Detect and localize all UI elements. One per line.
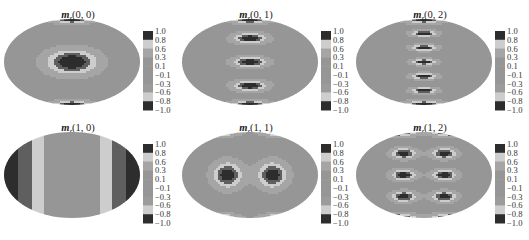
field-cell bbox=[54, 65, 56, 67]
field-cell bbox=[276, 73, 278, 75]
field-cell bbox=[186, 55, 188, 57]
field-cell bbox=[368, 53, 370, 55]
field-cell bbox=[218, 190, 220, 192]
field-cell bbox=[110, 166, 112, 168]
field-cell bbox=[452, 35, 454, 37]
field-cell bbox=[260, 45, 262, 47]
field-cell bbox=[40, 168, 42, 170]
field-cell bbox=[402, 148, 404, 150]
field-cell bbox=[248, 148, 250, 150]
field-cell bbox=[56, 158, 58, 160]
field-cell bbox=[474, 35, 476, 37]
field-cell bbox=[42, 138, 44, 140]
field-cell bbox=[192, 148, 194, 150]
field-cell bbox=[484, 41, 486, 43]
field-cell bbox=[464, 182, 466, 184]
field-cell bbox=[34, 150, 36, 152]
field-cell bbox=[434, 206, 436, 208]
field-cell bbox=[126, 63, 128, 65]
field-cell bbox=[456, 41, 458, 43]
field-cell bbox=[448, 194, 450, 196]
field-cell bbox=[230, 216, 232, 218]
field-cell bbox=[300, 184, 302, 186]
field-cell bbox=[360, 63, 362, 65]
field-cell bbox=[104, 41, 106, 43]
field-cell bbox=[64, 63, 66, 65]
field-cell bbox=[46, 182, 48, 184]
field-cell bbox=[378, 59, 380, 61]
field-cell bbox=[432, 204, 434, 206]
field-cell bbox=[230, 138, 232, 140]
field-cell bbox=[196, 43, 198, 45]
field-cell bbox=[224, 188, 226, 190]
field-cell bbox=[14, 81, 16, 83]
field-cell bbox=[372, 37, 374, 39]
field-cell bbox=[232, 61, 234, 63]
field-cell bbox=[232, 89, 234, 91]
field-cell bbox=[396, 99, 398, 101]
field-cell bbox=[470, 61, 472, 63]
field-cell bbox=[234, 156, 236, 158]
field-cell bbox=[88, 63, 90, 65]
field-cell bbox=[266, 101, 268, 103]
field-cell bbox=[204, 39, 206, 41]
field-cell bbox=[8, 43, 10, 45]
field-cell bbox=[40, 196, 42, 198]
field-cell bbox=[24, 71, 26, 73]
field-cell bbox=[260, 69, 262, 71]
field-cell bbox=[488, 158, 490, 160]
field-cell bbox=[114, 172, 116, 174]
field-cell bbox=[28, 194, 30, 196]
field-cell bbox=[304, 160, 306, 162]
field-cell bbox=[294, 174, 296, 176]
field-cell bbox=[424, 63, 426, 65]
field-cell bbox=[102, 178, 104, 180]
field-cell bbox=[232, 39, 234, 41]
field-cell bbox=[134, 160, 136, 162]
field-cell bbox=[38, 99, 40, 101]
field-cell bbox=[448, 71, 450, 73]
field-cell bbox=[240, 59, 242, 61]
field-cell bbox=[216, 192, 218, 194]
field-cell bbox=[18, 81, 20, 83]
field-cell bbox=[418, 146, 420, 148]
field-cell bbox=[268, 136, 270, 138]
field-cell bbox=[60, 31, 62, 33]
field-cell bbox=[28, 196, 30, 198]
field-cell bbox=[190, 166, 192, 168]
field-cell bbox=[88, 208, 90, 210]
field-cell bbox=[464, 186, 466, 188]
field-cell bbox=[58, 75, 60, 77]
field-cell bbox=[386, 81, 388, 83]
field-cell bbox=[282, 25, 284, 27]
field-cell bbox=[450, 172, 452, 174]
field-cell bbox=[220, 146, 222, 148]
field-cell bbox=[458, 33, 460, 35]
field-cell bbox=[30, 148, 32, 150]
field-cell bbox=[284, 154, 286, 156]
field-cell bbox=[434, 214, 436, 216]
field-cell bbox=[136, 180, 138, 182]
field-cell bbox=[74, 132, 76, 134]
field-cell bbox=[286, 200, 288, 202]
field-cell bbox=[412, 23, 414, 25]
field-cell bbox=[210, 71, 212, 73]
field-cell bbox=[308, 154, 310, 156]
field-cell bbox=[248, 152, 250, 154]
field-cell bbox=[100, 206, 102, 208]
field-cell bbox=[470, 75, 472, 77]
field-cell bbox=[438, 29, 440, 31]
field-cell bbox=[458, 75, 460, 77]
field-cell bbox=[378, 202, 380, 204]
field-cell bbox=[234, 59, 236, 61]
field-cell bbox=[264, 182, 266, 184]
field-cell bbox=[226, 89, 228, 91]
field-cell bbox=[222, 61, 224, 63]
field-cell bbox=[30, 182, 32, 184]
field-cell bbox=[232, 69, 234, 71]
field-cell bbox=[276, 53, 278, 55]
field-cell bbox=[182, 164, 184, 166]
field-cell bbox=[242, 150, 244, 152]
field-cell bbox=[100, 134, 102, 136]
field-cell bbox=[436, 41, 438, 43]
